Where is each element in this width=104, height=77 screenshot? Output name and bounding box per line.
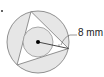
geometry-figure xyxy=(0,0,104,77)
midpoint-mark xyxy=(58,44,59,45)
center-point xyxy=(36,40,40,44)
radius-label: 8 mm xyxy=(78,27,103,38)
